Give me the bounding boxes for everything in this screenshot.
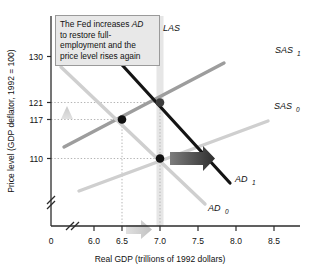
label-sas1-sub: 1	[297, 50, 301, 57]
y-tick-121: 121	[29, 98, 43, 108]
label-sas1: SAS 1	[275, 45, 301, 57]
x-tick-85: 8.5	[268, 236, 280, 246]
x-tick-65: 6.5	[116, 236, 128, 246]
y-tick-110: 110	[29, 154, 43, 164]
guide-lines	[51, 103, 160, 227]
note-line-2: to restore full-	[60, 30, 155, 41]
x-tick-60: 6.0	[88, 236, 100, 246]
label-ad1: AD 1	[234, 174, 256, 186]
arrow-price-rise	[61, 106, 73, 119]
label-ad0: AD 0	[207, 203, 229, 215]
y-tick-117: 117	[29, 115, 43, 125]
x-ticks	[94, 226, 274, 231]
y-tick-130: 130	[29, 52, 43, 62]
label-ad1-base: AD	[234, 174, 248, 184]
x-tick-0: 0	[49, 236, 54, 246]
point-fullemployment-old	[156, 154, 165, 163]
label-sas0-sub: 0	[296, 106, 300, 113]
note-line-1-em: AD	[132, 19, 144, 29]
label-ad1-sub: 1	[252, 179, 256, 186]
label-las: LAS	[163, 23, 180, 33]
x-tick-75: 7.5	[192, 236, 204, 246]
label-sas0: SAS 0	[274, 101, 300, 113]
note-line-4: price level rises again	[60, 51, 155, 62]
x-tick-70: 7.0	[154, 236, 166, 246]
note-line-3: employment and the	[60, 40, 155, 51]
point-new-equilibrium	[156, 98, 165, 107]
chart-container: 130 121 117 110 0 6.0 6.5 7.0 7.5 8.0 8.…	[0, 0, 318, 275]
label-sas1-base: SAS	[275, 45, 293, 55]
label-sas0-base: SAS	[274, 101, 292, 111]
note-line-1: The Fed increases AD	[60, 19, 155, 30]
point-initial-equilibrium	[118, 115, 127, 124]
label-ad0-base: AD	[207, 203, 221, 213]
x-axis-title: Real GDP (trillions of 1992 dollars)	[95, 254, 226, 264]
y-axis-title: Price level (GDP deflator, 1992 = 100)	[6, 49, 16, 192]
x-tick-80: 8.0	[230, 236, 242, 246]
curve-sas1	[64, 63, 224, 147]
label-ad0-sub: 0	[225, 208, 229, 215]
arrow-gdp-increase	[126, 220, 152, 239]
annotation-note: The Fed increases AD to restore full- em…	[55, 15, 160, 66]
note-line-1-pre: The Fed increases	[60, 19, 132, 29]
